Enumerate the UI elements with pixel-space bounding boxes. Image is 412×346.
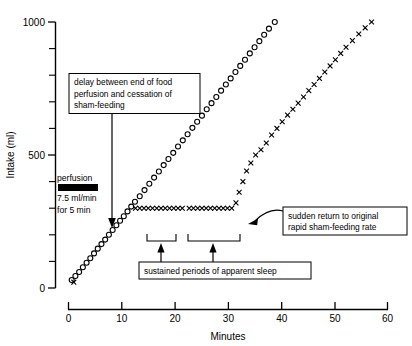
- data-point-cross: [217, 206, 222, 211]
- y-ticklabel-0: 0: [39, 283, 45, 294]
- delay-note-line-1: delay between end of food: [74, 77, 173, 87]
- data-point-cross: [200, 206, 205, 211]
- y-axis-title: Intake (ml): [5, 131, 16, 178]
- data-point-circle: [214, 95, 219, 100]
- data-point-cross: [225, 206, 230, 211]
- data-point-cross: [176, 206, 181, 211]
- data-point-cross: [163, 206, 168, 211]
- data-point-cross: [338, 51, 343, 56]
- data-point-cross: [191, 206, 196, 211]
- x-ticklabel-0: 0: [66, 313, 72, 324]
- data-point-circle: [156, 169, 161, 174]
- data-point-cross: [356, 32, 361, 37]
- data-point-cross: [269, 133, 274, 138]
- data-point-circle: [252, 45, 257, 50]
- data-point-circle: [95, 246, 100, 251]
- sudden-return-leader: [255, 210, 283, 221]
- data-point-circle: [84, 260, 89, 265]
- data-point-cross: [350, 38, 355, 43]
- data-point-circle: [147, 181, 152, 186]
- data-point-circle: [243, 57, 248, 62]
- x-axis-title: Minutes: [210, 331, 245, 342]
- data-point-circle: [152, 175, 157, 180]
- data-point-circle: [171, 150, 176, 155]
- data-point-circle: [121, 214, 126, 219]
- data-point-circle: [247, 51, 252, 56]
- x-ticklabel-10: 10: [116, 313, 128, 324]
- data-point-circle: [118, 218, 123, 223]
- data-point-cross: [208, 206, 213, 211]
- data-point-cross: [275, 126, 280, 131]
- data-point-cross: [285, 113, 290, 118]
- data-point-cross: [212, 206, 217, 211]
- data-point-cross: [237, 190, 242, 195]
- data-point-cross: [344, 45, 349, 50]
- data-point-circle: [132, 199, 137, 204]
- y-ticklabel-500: 500: [28, 150, 45, 161]
- chart-figure: 1000 500 0 Intake (ml) 0 10 20 30 40 50 …: [0, 0, 412, 346]
- data-point-cross: [306, 88, 311, 93]
- data-point-circle: [166, 156, 171, 161]
- data-point-cross: [171, 206, 176, 211]
- perfusion-legend: perfusion 7.5 ml/min for 5 min: [57, 173, 98, 215]
- perfusion-duration: for 5 min: [57, 205, 91, 215]
- data-point-cross: [317, 76, 322, 81]
- data-point-cross: [301, 95, 306, 100]
- sleep-note-line-1: sustained periods of apparent sleep: [144, 266, 277, 276]
- data-point-circle: [80, 265, 85, 270]
- x-ticklabel-40: 40: [276, 313, 288, 324]
- data-point-circle: [223, 82, 228, 87]
- data-point-circle: [204, 107, 209, 112]
- data-point-cross: [296, 101, 301, 106]
- data-point-cross: [204, 206, 209, 211]
- data-point-circle: [110, 228, 115, 233]
- annotation-sleep-note: sustained periods of apparent sleep: [139, 234, 311, 279]
- data-point-circle: [262, 32, 267, 37]
- data-point-cross: [244, 169, 249, 174]
- data-point-circle: [106, 232, 111, 237]
- perfusion-bar: [58, 184, 98, 191]
- data-point-cross: [221, 206, 226, 211]
- data-point-circle: [180, 138, 185, 143]
- data-point-cross: [322, 70, 327, 75]
- annotation-sudden-return-note: sudden return to original rapid sham-fee…: [248, 207, 407, 235]
- data-point-cross: [167, 206, 172, 211]
- data-point-cross: [369, 20, 374, 25]
- data-point-circle: [88, 256, 93, 261]
- y-ticklabel-1000: 1000: [23, 17, 46, 28]
- data-point-circle: [233, 70, 238, 75]
- data-point-cross: [253, 153, 258, 158]
- data-point-circle: [125, 209, 130, 214]
- data-point-cross: [328, 63, 333, 68]
- x-ticklabel-20: 20: [170, 313, 182, 324]
- data-point-cross: [180, 206, 185, 211]
- sleep-arrowhead-right: [209, 243, 216, 253]
- data-point-cross: [159, 206, 164, 211]
- data-point-cross: [240, 179, 245, 184]
- data-point-cross: [154, 206, 159, 211]
- x-axis: 0 10 20 30 40 50 60 Minutes: [66, 302, 394, 342]
- data-point-circle: [176, 144, 181, 149]
- delay-note-line-2: perfusion and cessation of: [74, 89, 172, 99]
- data-point-cross: [290, 107, 295, 112]
- sleep-bracket-left: [147, 234, 176, 241]
- data-point-cross: [259, 147, 264, 152]
- sudden-return-line-1: sudden return to original: [288, 211, 378, 221]
- data-point-cross: [312, 82, 317, 87]
- data-point-cross: [229, 206, 234, 211]
- data-point-cross: [195, 206, 200, 211]
- delay-note-line-3: sham-feeding: [74, 100, 125, 110]
- data-point-circle: [161, 163, 166, 168]
- data-point-cross: [146, 206, 151, 211]
- data-point-circle: [114, 223, 119, 228]
- data-point-cross: [363, 25, 368, 30]
- series-circles: [69, 20, 277, 283]
- data-point-cross: [248, 161, 253, 166]
- data-point-circle: [266, 26, 271, 31]
- x-ticklabel-30: 30: [223, 313, 235, 324]
- data-point-circle: [238, 63, 243, 68]
- data-point-cross: [187, 206, 192, 211]
- data-point-circle: [103, 237, 108, 242]
- data-point-cross: [234, 200, 239, 205]
- sleep-arrowhead-left: [157, 243, 164, 253]
